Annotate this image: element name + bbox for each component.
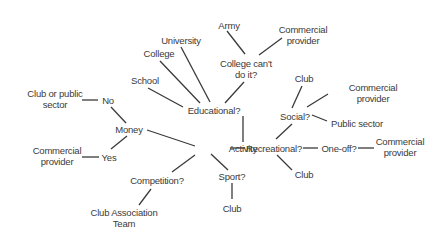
edge-college_cant-army: [227, 31, 245, 54]
edge-activity-money: [147, 130, 195, 146]
diagram-canvas: ActivityEducational?SchoolCollegeUnivers…: [0, 0, 448, 241]
node-college-cant: College can't do it?: [220, 58, 272, 80]
edge-educational-university: [181, 47, 210, 102]
node-club-sport: Club: [223, 203, 242, 214]
node-commercial-social: Commercial provider: [336, 82, 411, 104]
node-university: University: [161, 35, 201, 46]
node-club-rec: Club: [295, 169, 314, 180]
edge-activity-sport: [211, 154, 228, 170]
node-college: College: [144, 48, 175, 59]
node-oneoff: One-off?: [321, 143, 356, 154]
edge-money-no: [111, 107, 126, 123]
node-educational: Educational?: [188, 105, 241, 116]
node-school: School: [131, 75, 159, 86]
edge-competition-club_assoc: [139, 189, 151, 205]
edge-recreational-club_rec: [277, 155, 292, 170]
edge-recreational-social: [276, 124, 292, 139]
node-yes: Yes: [102, 152, 117, 163]
node-commercial-top: Commercial provider: [279, 24, 328, 46]
node-public-sector: Public sector: [331, 118, 383, 129]
edge-social-club_social: [292, 86, 302, 108]
edge-money-yes: [111, 136, 127, 149]
edge-social-commercial_social: [307, 94, 328, 107]
node-money: Money: [115, 124, 143, 135]
node-club-public: Club or public sector: [27, 88, 82, 110]
node-no: No: [102, 95, 114, 106]
node-competition: Competition?: [130, 175, 184, 186]
edge-educational-college: [160, 61, 200, 103]
edge-social-public_sector: [312, 115, 327, 121]
node-commercial-left: Commercial provider: [33, 145, 82, 167]
node-recreational: Recreational?: [246, 143, 302, 154]
edge-educational-school: [148, 88, 183, 107]
node-sport: Sport?: [219, 171, 246, 182]
node-army: Army: [218, 20, 239, 31]
edge-activity-competition: [172, 155, 195, 172]
node-commercial-right: Commercial provider: [376, 136, 425, 158]
edge-educational-college_cant: [225, 82, 244, 103]
node-club-social: Club: [295, 73, 314, 84]
node-social: Social?: [280, 111, 310, 122]
node-club-assoc: Club Association Team: [90, 207, 157, 229]
